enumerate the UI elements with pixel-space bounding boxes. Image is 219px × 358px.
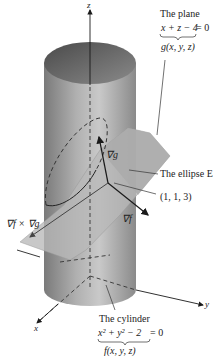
grad-f-label: ∇f [122,213,133,224]
y-axis-label: y [204,299,209,309]
svg-text:g(x, y, z): g(x, y, z) [161,41,196,53]
svg-text:x + z − 4: x + z − 4 [160,22,198,33]
svg-text:= 0: = 0 [150,327,163,338]
cross-product-label: ∇f × ∇g [6,218,40,229]
z-axis-label: z [86,0,91,10]
svg-text:f(x, y, z): f(x, y, z) [104,345,136,357]
cylinder-plane-diagram: z x y ∇g ∇f ∇f × ∇g The plane x + z − 4 … [0,0,219,358]
ellipse-label: The ellipse E [160,168,213,179]
point-label: (1, 1, 3) [160,191,192,203]
x-axis-label: x [33,323,38,333]
svg-text:The plane: The plane [160,8,200,19]
plane-label: The plane x + z − 4 = 0 g(x, y, z) [160,8,209,53]
grad-g-label: ∇g [106,149,118,160]
svg-text:x² + y² − 2: x² + y² − 2 [97,327,141,338]
cylinder-label: The cylinder x² + y² − 2 = 0 f(x, y, z) [97,313,163,357]
svg-text:The cylinder: The cylinder [99,313,150,324]
svg-text:= 0: = 0 [196,22,209,33]
